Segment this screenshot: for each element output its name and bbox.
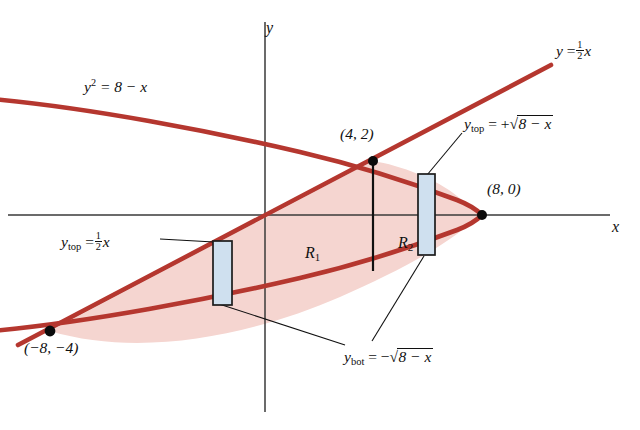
leader-ytop-sqrt bbox=[427, 133, 462, 175]
label-line-equation: y =12x bbox=[556, 40, 591, 62]
label-y-top-half-x: ytop =12x bbox=[61, 231, 110, 253]
axis-label-x: x bbox=[612, 219, 619, 235]
label-y-top-sqrt: ytop = +√8 − x bbox=[464, 115, 553, 135]
label-region-r2: R2 bbox=[398, 235, 413, 253]
label-point-minus8-minus4: (−8, −4) bbox=[24, 340, 79, 356]
right-strip bbox=[418, 174, 435, 255]
point-4-2 bbox=[368, 156, 378, 166]
label-point-8-0: (8, 0) bbox=[487, 181, 521, 197]
point-minus8-minus4 bbox=[45, 326, 56, 337]
leader-ytop-half bbox=[160, 239, 214, 242]
label-point-4-2: (4, 2) bbox=[340, 126, 374, 142]
axis-label-y: y bbox=[266, 20, 273, 36]
math-figure bbox=[0, 0, 640, 430]
label-y-bot-sqrt: ybot = −√8 − x bbox=[344, 348, 433, 368]
point-8-0 bbox=[477, 210, 487, 220]
label-region-r1: R1 bbox=[305, 245, 320, 263]
label-parabola-equation: y2 = 8 − x bbox=[84, 78, 147, 94]
left-strip bbox=[213, 241, 232, 305]
